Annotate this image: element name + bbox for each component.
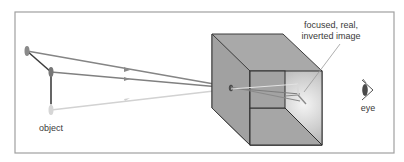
pinhole-camera-diagram: object focused, real, inverted image [0, 0, 404, 162]
object-label: object [39, 123, 64, 133]
box-back-wall [250, 71, 285, 108]
object-joint-icon [49, 67, 54, 77]
arrow-icon [124, 77, 130, 81]
object-figure [25, 46, 54, 115]
object-base-icon [49, 105, 54, 115]
eye-icon [362, 79, 373, 100]
object-tip-icon [25, 46, 30, 56]
eye-label: eye [361, 103, 376, 113]
light-rays [27, 51, 231, 110]
ray-middle [51, 72, 231, 88]
ray-top [27, 51, 231, 87]
image-label-line1: focused, real, [304, 20, 358, 30]
image-label-line2: inverted image [301, 31, 360, 41]
ray-bottom [51, 89, 231, 110]
